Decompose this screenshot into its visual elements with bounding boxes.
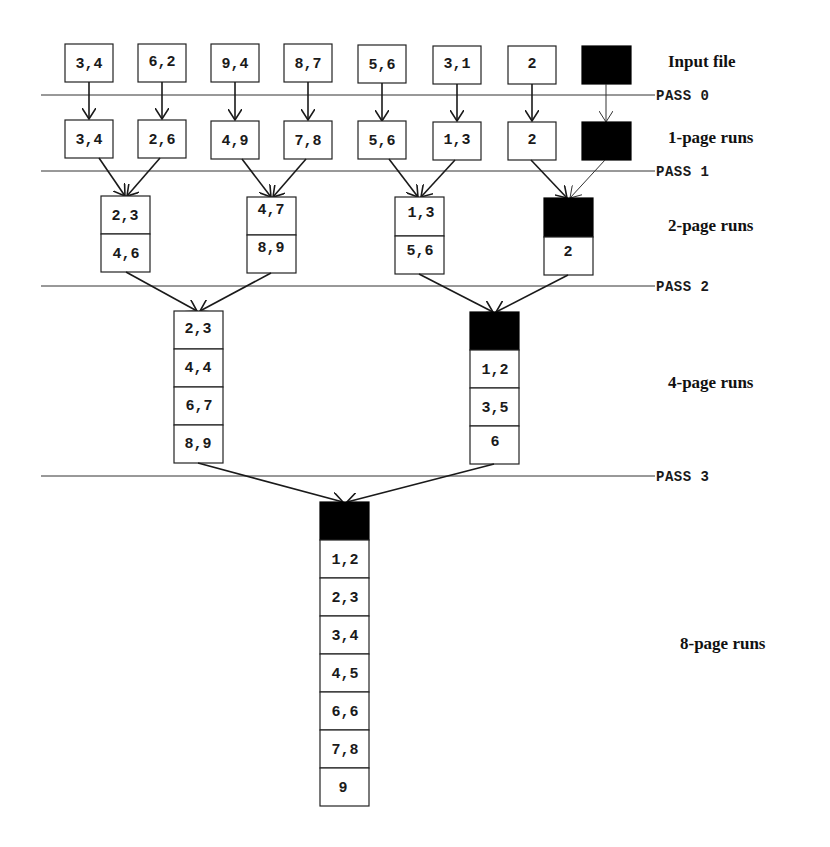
stage-label-input: Input file: [668, 52, 736, 71]
run4-block-1: 2,3 4,4 6,7 8,9: [174, 311, 223, 463]
run8-page-5-value: 4,5: [331, 666, 358, 683]
merge-arrow-icon: [531, 160, 567, 198]
run1-page-1-value: 3,4: [75, 132, 102, 149]
merge-arrow-icon: [496, 275, 568, 312]
run1-page-2-value: 2,6: [148, 132, 175, 149]
merge-arrow-icon: [200, 273, 271, 311]
pass-2-label: PASS 2: [656, 279, 709, 295]
merge-arrow-icon: [347, 464, 494, 502]
merge-arrow-icon: [198, 463, 343, 502]
run8-page-6-value: 6,6: [331, 704, 358, 721]
input-page-2-value: 6,2: [148, 54, 175, 71]
merge-arrow-icon: [389, 159, 418, 197]
run1-page-3-value: 4,9: [221, 133, 248, 150]
run4-1-page-3-value: 6,7: [185, 398, 212, 415]
merge-arrow-icon: [242, 159, 271, 197]
input-page-6-value: 3,1: [443, 56, 470, 73]
pass-2-arrows: [126, 272, 568, 312]
pass-0-label: PASS 0: [656, 88, 709, 104]
input-file-row: 3,4 6,2 9,4 8,7 5,6 3,1 2: [65, 44, 631, 84]
runs-4-page-row: 2,3 4,4 6,7 8,9 1,2 3,5 6: [174, 311, 519, 464]
run1-page-8-filled: [582, 122, 631, 160]
run2-2-page-1-value: 4,7: [257, 202, 284, 219]
run8-page-8-value: 9: [338, 780, 347, 797]
run4-2-page-4-value: 6: [490, 434, 499, 451]
run2-3-page-2-value: 5,6: [406, 243, 433, 260]
merge-arrow-icon: [273, 159, 306, 197]
run8-page-1-filled: [320, 502, 369, 540]
runs-2-page-row: 2,3 4,6 4,7 8,9 1,3 5,6 2: [101, 196, 593, 275]
run4-1-page-4-value: 8,9: [184, 436, 211, 453]
run8-page-2-value: 1,2: [331, 552, 358, 569]
run2-block-2: 4,7 8,9: [247, 197, 296, 273]
run4-block-2: 1,2 3,5 6: [470, 312, 519, 464]
runs-1-page-row: 3,4 2,6 4,9 7,8 5,6 1,3 2: [65, 120, 631, 160]
run8-page-7-value: 7,8: [331, 742, 358, 759]
run4-2-page-1-filled: [470, 312, 519, 350]
run2-block-1: 2,3 4,6: [101, 196, 150, 272]
run1-page-4-value: 7,8: [294, 133, 321, 150]
run2-block-3: 1,3 5,6: [395, 197, 444, 274]
run2-1-page-1-value: 2,3: [111, 208, 138, 225]
stage-label-4-page: 4-page runs: [668, 373, 754, 392]
input-page-7-value: 2: [527, 56, 536, 73]
merge-arrow-icon: [419, 274, 493, 312]
run2-4-page-1-filled: [544, 198, 593, 237]
merge-arrow-icon: [99, 158, 125, 196]
external-merge-sort-diagram: PASS 0 PASS 1 PASS 2 PASS 3 Input file 1…: [0, 0, 830, 847]
run2-3-page-1-value: 1,3: [407, 205, 434, 222]
input-page-3-value: 9,4: [221, 56, 248, 73]
merge-arrow-icon: [127, 158, 160, 196]
input-page-5-value: 5,6: [368, 57, 395, 74]
run2-block-4: 2: [544, 198, 593, 275]
merge-arrow-icon: [421, 160, 455, 197]
run1-page-5-value: 5,6: [368, 133, 395, 150]
stage-label-1-page: 1-page runs: [668, 128, 754, 147]
run4-2-page-2-value: 1,2: [481, 362, 508, 379]
stage-labels: Input file 1-page runs 2-page runs 4-pag…: [668, 52, 766, 653]
pass-3-arrows: [198, 463, 494, 502]
run4-1-page-1-value: 2,3: [184, 321, 211, 338]
pass-3-label: PASS 3: [656, 469, 709, 485]
merge-arrow-icon: [570, 160, 605, 198]
pass-1-label: PASS 1: [656, 164, 709, 180]
run1-page-7-value: 2: [527, 132, 536, 149]
run1-page-6-value: 1,3: [443, 132, 470, 149]
run8-page-3-value: 2,3: [331, 590, 358, 607]
run4-2-page-3-value: 3,5: [481, 400, 508, 417]
runs-8-page-block: 1,2 2,3 3,4 4,5 6,6 7,8 9: [320, 502, 369, 806]
input-page-4-value: 8,7: [294, 56, 321, 73]
pass-0-arrows: [89, 82, 606, 122]
stage-label-8-page: 8-page runs: [680, 634, 766, 653]
merge-arrow-icon: [126, 272, 197, 311]
run2-2-page-2-value: 8,9: [257, 240, 284, 257]
run4-1-page-2-value: 4,4: [184, 360, 211, 377]
input-page-1-value: 3,4: [75, 56, 102, 73]
run8-page-4-value: 3,4: [331, 628, 358, 645]
input-page-8-filled: [582, 46, 631, 84]
stage-label-2-page: 2-page runs: [668, 216, 754, 235]
pass-1-arrows: [99, 158, 605, 198]
run2-1-page-2-value: 4,6: [112, 246, 139, 263]
run2-4-page-2-value: 2: [563, 244, 572, 261]
